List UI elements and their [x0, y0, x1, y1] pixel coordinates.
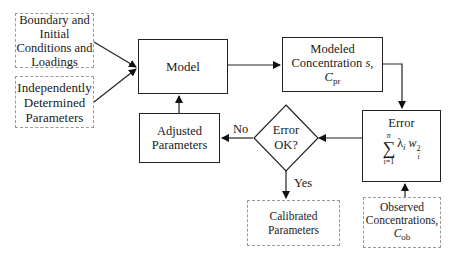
observed-line-3: Cob: [394, 227, 411, 244]
error-box: Error n ∑ i=1 λi w2i: [362, 110, 441, 182]
sum-symbol: ∑: [382, 140, 395, 157]
calibration-flowchart: Boundary and Initial Conditions and Load…: [0, 0, 458, 258]
model-box: Model: [138, 39, 228, 94]
independent-line-1: Independently: [17, 80, 91, 95]
w: w: [409, 136, 417, 150]
edge-label-no: No: [233, 122, 248, 137]
observed-line-2: Concentrations,: [366, 214, 439, 227]
modeled-sep: ,: [370, 56, 373, 70]
boundary-line-1: Boundary and: [19, 13, 89, 27]
decision-line-1: Error: [273, 123, 299, 138]
model-label: Model: [166, 60, 200, 74]
w-sub: i: [417, 153, 421, 161]
independent-line-3: Parameters: [26, 110, 84, 125]
decision-label: Error OK?: [254, 118, 318, 158]
lambda-sub: i: [403, 142, 406, 152]
adjusted-parameters-box: Adjusted Parameters: [139, 113, 220, 163]
error-formula: n ∑ i=1 λi w2i: [382, 131, 420, 166]
adjusted-line-1: Adjusted: [157, 124, 202, 138]
calibrated-parameters-box: Calibrated Parameters: [247, 200, 340, 246]
observed-line-1: Observed: [380, 201, 424, 214]
modeled-line-1: Modeled: [310, 42, 354, 56]
modeled-line-2: Concentration s, Cpr: [283, 56, 382, 88]
sum-lower: i=1: [383, 157, 394, 166]
w-scripts: 2i: [417, 145, 421, 161]
modeled-prefix: Concentration: [292, 56, 366, 70]
boundary-line-3: Conditions and: [16, 41, 92, 55]
independent-parameters-box: Independently Determined Parameters: [15, 76, 94, 128]
modeled-sub: pr: [333, 76, 341, 86]
modeled-sym: C: [325, 70, 333, 84]
independent-line-2: Determined: [24, 95, 85, 110]
adjusted-line-2: Parameters: [152, 138, 208, 152]
modeled-concentration-box: Modeled Concentration s, Cpr: [282, 37, 383, 92]
edge-label-yes: Yes: [294, 176, 312, 191]
boundary-conditions-box: Boundary and Initial Conditions and Load…: [15, 13, 94, 68]
boundary-line-2: Initial: [40, 27, 70, 41]
observed-sub: ob: [401, 232, 410, 242]
sum-operator: n ∑ i=1: [382, 131, 395, 166]
sum-term: λi w2i: [397, 136, 420, 161]
observed-concentrations-box: Observed Concentrations, Cob: [363, 197, 441, 248]
calibrated-line-1: Calibrated: [270, 209, 318, 223]
decision-line-2: OK?: [274, 138, 298, 153]
boundary-line-4: Loadings: [31, 55, 78, 69]
calibrated-line-2: Parameters: [268, 223, 319, 237]
error-title: Error: [388, 116, 414, 130]
